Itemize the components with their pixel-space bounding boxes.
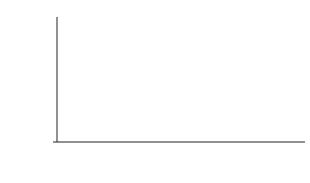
fvc-line-chart	[0, 0, 310, 183]
